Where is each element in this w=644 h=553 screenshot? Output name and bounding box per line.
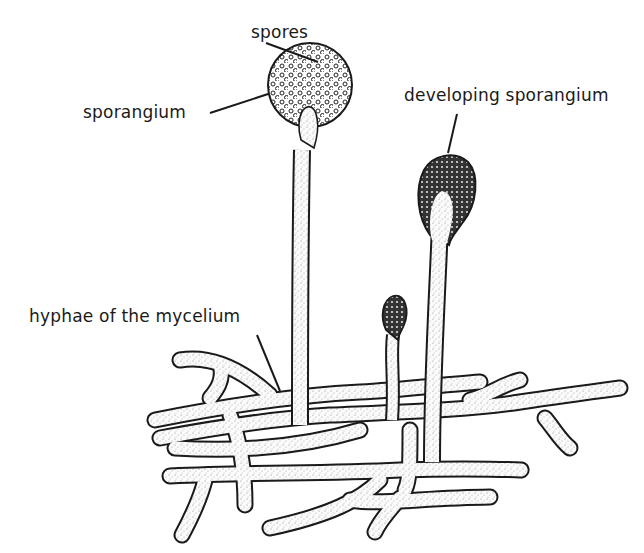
label-spores: spores: [251, 22, 308, 42]
fungus-diagram: spores sporangium developing sporangium …: [0, 0, 644, 553]
label-sporangium: sporangium: [83, 102, 186, 122]
mature-sporangiophore: [268, 43, 352, 425]
sporangium-leader: [210, 94, 268, 113]
young-sporangiophore: [383, 296, 407, 420]
label-hyphae: hyphae of the mycelium: [29, 306, 240, 326]
diagram-drawing: [0, 0, 644, 553]
young-sporangium: [383, 296, 407, 340]
developing-sporangium-leader: [448, 114, 457, 153]
label-developing-sporangium: developing sporangium: [404, 85, 609, 105]
